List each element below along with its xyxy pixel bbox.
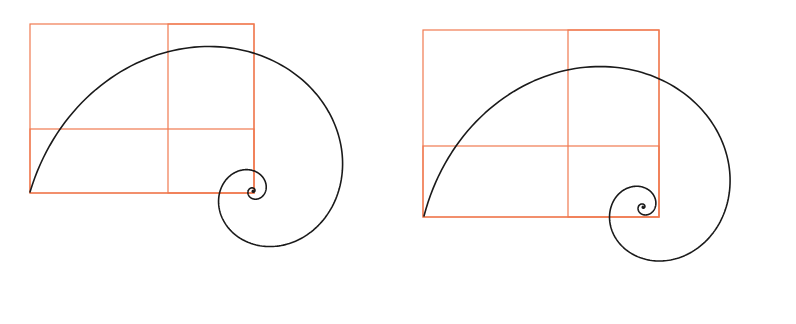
golden-rectangle-guides-left: [30, 24, 254, 193]
figure-left: [30, 24, 343, 247]
guide-rect: [423, 30, 659, 217]
golden-spiral-diagram: [0, 0, 796, 324]
golden-spiral-right: [424, 67, 730, 261]
figure-right: [423, 30, 730, 261]
golden-spiral-left: [30, 46, 343, 246]
guide-rect: [568, 30, 659, 217]
guide-rect: [30, 24, 254, 193]
golden-rectangle-guides-right: [423, 30, 659, 217]
guide-rect: [30, 129, 254, 193]
guide-rect: [423, 146, 659, 217]
